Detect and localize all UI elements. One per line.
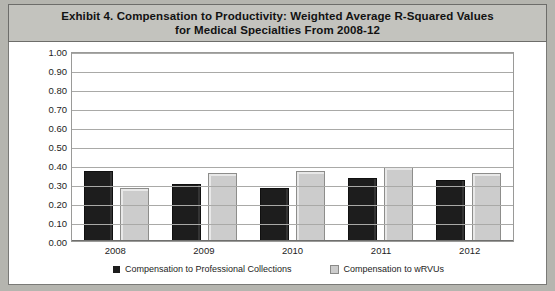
gridline <box>72 91 513 92</box>
legend-label: Compensation to wRVUs <box>344 264 444 274</box>
legend-label: Compensation to Professional Collections <box>125 264 292 274</box>
y-axis-tick-label: 0.70 <box>31 104 67 115</box>
bar[interactable] <box>384 167 413 241</box>
y-axis-tick-label: 0.40 <box>31 161 67 172</box>
bar[interactable] <box>120 188 149 241</box>
bar[interactable] <box>208 173 237 241</box>
bar-group <box>72 53 160 241</box>
gridline <box>72 224 513 225</box>
legend-swatch-icon <box>113 266 120 273</box>
bar[interactable] <box>260 188 289 241</box>
gridline <box>72 72 513 73</box>
bar[interactable] <box>348 178 377 241</box>
x-axis-tick-label: 2011 <box>337 245 426 256</box>
y-axis-tick-label: 0.10 <box>31 218 67 229</box>
y-axis-tick-label: 0.80 <box>31 85 67 96</box>
chart-legend: Compensation to Professional Collections… <box>9 264 548 274</box>
title-line-1: Exhibit 4. Compensation to Productivity:… <box>61 10 494 22</box>
x-axis-line <box>72 240 513 241</box>
legend-item[interactable]: Compensation to wRVUs <box>330 264 444 274</box>
x-axis-tick-label: 2009 <box>160 245 249 256</box>
y-axis-tick-label: 1.00 <box>31 47 67 58</box>
title-line-2: for Medical Specialties From 2008-12 <box>175 24 380 36</box>
x-axis-tick-label: 2010 <box>248 245 337 256</box>
x-axis-tick-labels: 20082009201020112012 <box>71 245 514 256</box>
plot-wrapper: 1.000.900.800.700.600.500.400.300.200.10… <box>9 42 546 284</box>
legend-item[interactable]: Compensation to Professional Collections <box>113 264 292 274</box>
legend-swatch-icon <box>330 265 339 274</box>
x-axis-tick-label: 2012 <box>425 245 514 256</box>
bar[interactable] <box>172 184 201 241</box>
page-title: Exhibit 4. Compensation to Productivity:… <box>53 9 502 37</box>
bar-group <box>337 53 425 241</box>
y-axis-tick-label: 0.50 <box>31 142 67 153</box>
y-axis-tick-label: 0.60 <box>31 123 67 134</box>
gridline <box>72 53 513 54</box>
gridline <box>72 205 513 206</box>
exhibit-title-band: Exhibit 4. Compensation to Productivity:… <box>8 4 547 42</box>
chart-panel: 1.000.900.800.700.600.500.400.300.200.10… <box>8 42 547 285</box>
y-axis-tick-label: 0.20 <box>31 199 67 210</box>
bar[interactable] <box>472 173 501 241</box>
x-axis-tick-label: 2008 <box>71 245 160 256</box>
gridline <box>72 186 513 187</box>
bar[interactable] <box>436 180 465 241</box>
gridline <box>72 167 513 168</box>
gridline <box>72 148 513 149</box>
figure-container: Exhibit 4. Compensation to Productivity:… <box>0 0 555 291</box>
bar-group <box>248 53 336 241</box>
bar-groups <box>72 53 513 241</box>
bar-group <box>425 53 513 241</box>
gridline <box>72 129 513 130</box>
y-axis-tick-label: 0.90 <box>31 66 67 77</box>
y-axis-tick-label: 0.30 <box>31 180 67 191</box>
y-axis-tick-labels: 1.000.900.800.700.600.500.400.300.200.10… <box>31 52 67 242</box>
bar-group <box>160 53 248 241</box>
gridline <box>72 110 513 111</box>
y-axis-tick-label: 0.00 <box>31 237 67 248</box>
plot-area <box>71 52 514 242</box>
